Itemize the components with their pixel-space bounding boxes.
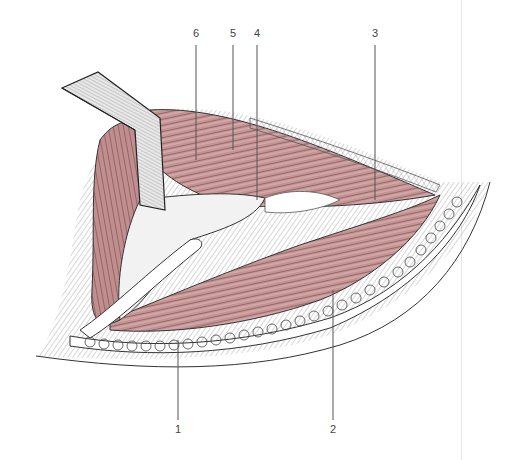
label-5: 5 <box>226 27 240 39</box>
anatomical-figure: 6 5 4 3 1 2 <box>0 0 510 460</box>
illustration <box>0 0 510 460</box>
label-4: 4 <box>250 27 264 39</box>
label-1: 1 <box>171 423 185 435</box>
label-2: 2 <box>326 423 340 435</box>
label-6: 6 <box>189 27 203 39</box>
label-3: 3 <box>368 27 382 39</box>
